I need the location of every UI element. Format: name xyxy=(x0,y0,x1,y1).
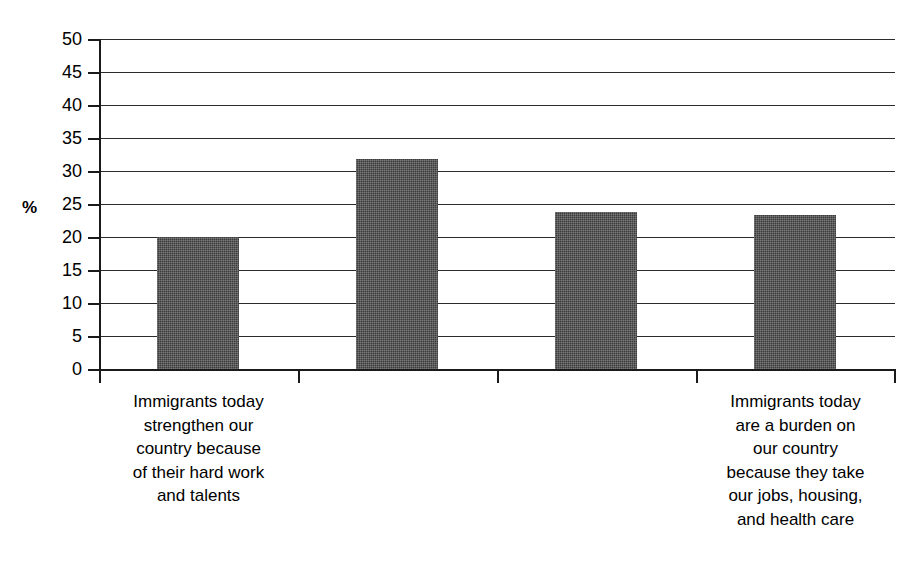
bar-1[interactable] xyxy=(356,159,438,369)
y-tick-mark-45 xyxy=(88,72,101,74)
bar-chart: % 50 45 40 35 30 25 20 15 10 5 0 Immigra… xyxy=(0,0,923,571)
y-tick-mark-20 xyxy=(88,237,101,239)
y-tick-mark-50 xyxy=(88,39,101,41)
gridline-45 xyxy=(100,72,895,73)
y-tick-mark-15 xyxy=(88,270,101,272)
bar-2[interactable] xyxy=(555,212,637,369)
y-tick-label-35: 35 xyxy=(48,129,82,147)
x-tick-boundary-2 xyxy=(497,369,499,383)
x-tick-boundary-3 xyxy=(696,369,698,383)
y-tick-label-10: 10 xyxy=(48,294,82,312)
x-category-label-3: Immigrants today are a burden on our cou… xyxy=(696,390,895,531)
y-tick-mark-5 xyxy=(88,336,101,338)
y-tick-label-5: 5 xyxy=(48,327,82,345)
x-tick-boundary-1 xyxy=(298,369,300,383)
gridline-30 xyxy=(100,171,895,172)
y-tick-label-30: 30 xyxy=(48,162,82,180)
gridline-35 xyxy=(100,138,895,139)
x-tick-boundary-0 xyxy=(99,369,101,383)
y-tick-label-20: 20 xyxy=(48,228,82,246)
x-category-label-0: Immigrants today strengthen our country … xyxy=(99,390,298,508)
y-tick-mark-30 xyxy=(88,171,101,173)
y-axis-line xyxy=(99,39,101,380)
y-tick-label-45: 45 xyxy=(48,63,82,81)
y-tick-label-40: 40 xyxy=(48,96,82,114)
y-tick-mark-10 xyxy=(88,303,101,305)
y-tick-label-50: 50 xyxy=(48,30,82,48)
y-tick-label-25: 25 xyxy=(48,195,82,213)
x-axis-line xyxy=(88,369,896,371)
bar-0[interactable] xyxy=(157,237,239,369)
y-tick-mark-40 xyxy=(88,105,101,107)
y-tick-mark-25 xyxy=(88,204,101,206)
gridline-25 xyxy=(100,204,895,205)
gridline-40 xyxy=(100,105,895,106)
gridline-50 xyxy=(100,39,895,40)
x-tick-boundary-4 xyxy=(894,369,896,383)
y-tick-label-0: 0 xyxy=(48,360,82,378)
y-tick-mark-35 xyxy=(88,138,101,140)
y-axis-title: % xyxy=(22,199,37,216)
y-tick-label-15: 15 xyxy=(48,261,82,279)
bar-3[interactable] xyxy=(754,215,836,369)
